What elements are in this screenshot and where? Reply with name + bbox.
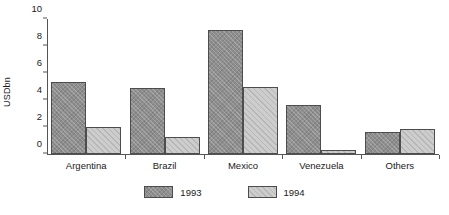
bar-chart: USDbn 0246810 19931994 ArgentinaBrazilMe… [0,0,449,215]
bar-argentina-1994 [86,127,121,154]
x-tick-mark [125,155,126,159]
bar-venezuela-1994 [321,150,356,154]
y-tick-label: 6 [37,57,42,68]
bar-brazil-1994 [165,137,200,154]
y-tick-mark [43,45,47,46]
legend-item-1994[interactable]: 1994 [248,186,305,198]
y-axis-label: USDbn [2,62,16,122]
bar-group [208,19,278,154]
y-tick-mark [43,18,47,19]
x-tick-mark [204,155,205,159]
bar-mexico-1994 [243,87,278,155]
y-tick-mark [43,126,47,127]
bar-mexico-1993 [208,30,243,154]
x-tick-label: Others [386,160,415,171]
x-tick-label: Argentina [66,160,107,171]
y-tick-mark [43,72,47,73]
bar-group [130,19,200,154]
legend-label-1994: 1994 [284,187,305,198]
x-tick-mark [439,155,440,159]
chart-legend: 19931994 [0,186,449,198]
x-tick-mark [282,155,283,159]
y-tick-mark [43,153,47,154]
legend-label-1993: 1993 [180,187,201,198]
x-axis-line [47,154,439,155]
bar-group [51,19,121,154]
x-tick-mark [361,155,362,159]
y-tick-label: 4 [37,84,42,95]
y-tick-mark [43,99,47,100]
legend-swatch-1993 [144,186,173,198]
x-tick-label: Brazil [153,160,177,171]
x-tick-label: Venezuela [299,160,343,171]
bar-argentina-1993 [51,82,86,154]
y-tick-label: 10 [31,3,42,14]
bar-venezuela-1993 [286,105,321,154]
bar-others-1993 [365,132,400,154]
bar-group [286,19,356,154]
bar-brazil-1993 [130,88,165,154]
bar-group [365,19,435,154]
y-tick-label: 0 [37,138,42,149]
legend-swatch-1994 [248,186,277,198]
bar-others-1994 [400,129,435,154]
legend-item-1993[interactable]: 1993 [144,186,201,198]
y-tick-label: 2 [37,111,42,122]
y-tick-label: 8 [37,30,42,41]
x-tick-label: Mexico [228,160,258,171]
plot-area: 0246810 [47,19,439,154]
